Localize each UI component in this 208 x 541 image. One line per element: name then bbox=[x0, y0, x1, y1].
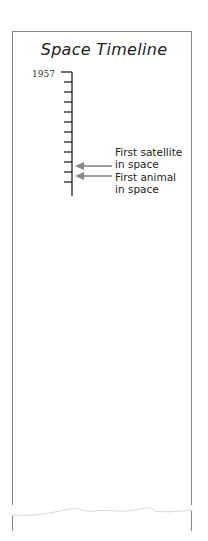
event-label-line: in space bbox=[115, 158, 182, 170]
event-label-satellite: First satellite in space bbox=[115, 146, 182, 170]
event-arrow-satellite bbox=[75, 162, 112, 170]
event-label-animal: First animal in space bbox=[115, 171, 176, 195]
event-label-line: First satellite bbox=[115, 146, 182, 158]
event-label-line: in space bbox=[115, 183, 176, 195]
timeline-axis bbox=[0, 0, 208, 541]
event-arrow-animal bbox=[75, 172, 112, 180]
event-label-line: First animal bbox=[115, 171, 176, 183]
